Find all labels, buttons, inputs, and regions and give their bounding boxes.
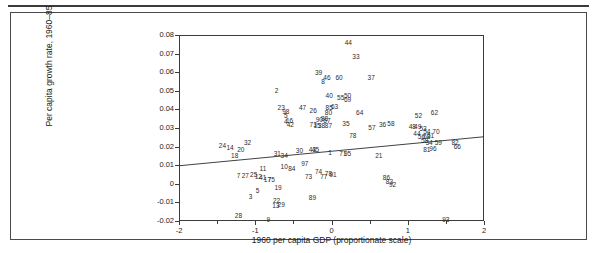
data-point-label: 8	[321, 79, 325, 86]
x-tick-label: -1	[252, 227, 259, 235]
figure-border: Per capita growth rate, 1960–85 0.080.07…	[10, 12, 587, 240]
data-point-label: 73	[305, 174, 312, 181]
x-tick-label: 2	[482, 227, 486, 235]
data-point-label: 10	[281, 164, 288, 171]
data-point-label: 2	[275, 88, 279, 95]
data-point-label: 7	[237, 173, 241, 180]
data-point-label: 28	[235, 213, 242, 220]
x-tick-mark	[179, 221, 180, 225]
data-point-label: 39	[315, 70, 322, 77]
x-tick-label: -2	[176, 227, 183, 235]
y-tick-mark	[175, 184, 179, 185]
data-point-label: 29	[278, 201, 285, 208]
data-point-label: 47	[299, 105, 306, 112]
y-tick-mark	[175, 147, 179, 148]
x-tick-minor-mark	[293, 221, 294, 224]
data-point-label: 97	[301, 160, 308, 167]
x-tick-mark	[255, 221, 256, 225]
data-point-label: 66	[454, 143, 461, 150]
x-tick-mark	[332, 221, 333, 225]
data-point-label: 3	[249, 194, 253, 201]
data-point-label: 57	[368, 125, 375, 132]
data-point-label: 75	[268, 176, 275, 183]
y-tick-mark	[175, 202, 179, 203]
data-point-label: 96	[429, 146, 436, 153]
x-tick-minor-mark	[217, 221, 218, 224]
data-point-label: 26	[310, 108, 317, 115]
data-point-label: 87	[325, 123, 332, 130]
figure-page: Per capita growth rate, 1960–85 0.080.07…	[0, 0, 597, 253]
data-point-label: 30	[296, 148, 303, 155]
y-tick-mark	[175, 165, 179, 166]
data-point-label: 64	[356, 110, 363, 117]
data-point-label: 42	[287, 122, 294, 129]
x-tick-label: 0	[329, 227, 333, 235]
x-tick-mark	[408, 221, 409, 225]
data-point-label: 32	[244, 140, 251, 147]
data-point-label: 11	[260, 166, 267, 173]
data-point-label: 95	[344, 150, 351, 157]
data-point-label: 33	[352, 54, 359, 61]
data-point-label: 36	[379, 121, 386, 128]
y-tick-mark	[175, 54, 179, 55]
data-point-label: 37	[368, 75, 375, 82]
data-point-label: 89	[309, 195, 316, 202]
data-point-label: 1	[328, 149, 332, 156]
y-tick-mark	[175, 109, 179, 110]
y-tick-mark	[175, 72, 179, 73]
data-point-label: 69	[344, 97, 351, 104]
plot-area: 0.080.070.060.050.040.030.020.010-0.01-0…	[179, 35, 484, 221]
data-point-label: 9	[266, 217, 270, 224]
data-point-label: 14	[226, 144, 233, 151]
data-point-label: 93	[442, 216, 449, 223]
data-point-label: 21	[375, 152, 382, 159]
data-point-label: 35	[342, 121, 349, 128]
data-point-label: 44	[345, 40, 352, 47]
data-point-label: 24	[219, 142, 226, 149]
data-point-label: 52	[415, 113, 422, 120]
data-point-label: 5	[256, 188, 260, 195]
data-point-label: 91	[329, 172, 336, 179]
data-point-label: 19	[275, 184, 282, 191]
x-tick-label: 1	[406, 227, 410, 235]
x-axis-label: 1960 per capita GDP (proportionate scale…	[179, 235, 484, 245]
data-point-label: 45	[312, 147, 319, 154]
data-point-label: 34	[281, 153, 288, 160]
y-tick-mark	[175, 91, 179, 92]
data-point-label: 84	[288, 165, 295, 172]
data-point-label: 60	[336, 75, 343, 82]
data-point-label: 18	[231, 153, 238, 160]
data-point-label: 58	[387, 121, 394, 128]
x-tick-minor-mark	[370, 221, 371, 224]
y-tick-mark	[175, 128, 179, 129]
data-point-label: 27	[242, 173, 249, 180]
y-axis-label: Per capita growth rate, 1960–85	[44, 0, 54, 156]
data-point-label: 62	[431, 110, 438, 117]
top-divider-rule	[8, 5, 589, 7]
data-point-label: 92	[389, 182, 396, 189]
x-tick-mark	[484, 221, 485, 225]
data-point-label: 78	[349, 133, 356, 140]
data-point-label: 40	[326, 93, 333, 100]
y-tick-mark	[175, 35, 179, 36]
